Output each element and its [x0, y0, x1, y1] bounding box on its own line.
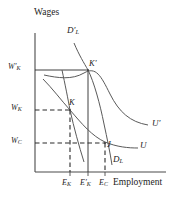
y-tick-label-w-c: WC — [11, 137, 22, 145]
wage-employment-diagram: Wages Employment W′K WK WC EK E′K EC D′L… — [0, 0, 177, 203]
curve-label-u: U — [140, 141, 147, 150]
y-tick-w-k-main: W — [11, 103, 18, 112]
curve-label-d-l: DL — [113, 155, 123, 165]
x-tick-e-c-sub: C — [104, 181, 108, 187]
y-tick-w-k-sub: K — [18, 106, 22, 112]
y-tick-label-w-prime-k: W′K — [8, 63, 20, 71]
y-tick-w-prime-k-sub: K — [16, 65, 20, 71]
point-label-j: J — [107, 140, 111, 149]
curve-label-u-prime: U′ — [152, 119, 160, 128]
point-marker-j — [104, 142, 106, 144]
labor-demand-curve-d-l — [62, 70, 84, 162]
y-axis-title: Wages — [34, 8, 59, 18]
y-tick-w-c-sub: C — [18, 139, 22, 145]
curve-d-prime-l-sub: L — [75, 28, 79, 35]
chart-canvas — [0, 0, 177, 203]
guide-lines-dashed — [35, 110, 105, 172]
x-tick-label-e-prime-k: E′K — [80, 179, 91, 187]
point-label-k: K — [69, 98, 75, 107]
x-tick-e-prime-k-sub: K — [87, 181, 91, 187]
point-label-k-prime: K′ — [89, 59, 97, 68]
x-axis-ticks — [70, 172, 105, 176]
x-tick-label-e-k: EK — [62, 179, 71, 187]
axes-group — [35, 33, 166, 172]
x-axis-title: Employment — [113, 178, 162, 188]
x-tick-e-k-sub: K — [67, 181, 71, 187]
x-tick-e-prime-k-main: E′ — [80, 178, 87, 187]
point-marker-k — [69, 109, 71, 111]
y-tick-label-w-k: WK — [11, 104, 22, 112]
y-tick-w-c-main: W — [11, 136, 18, 145]
x-tick-label-e-c: EC — [99, 179, 108, 187]
curve-d-l-sub: L — [120, 157, 124, 164]
point-marker-k-prime — [87, 69, 89, 71]
curve-label-d-prime-l: D′L — [67, 26, 79, 36]
